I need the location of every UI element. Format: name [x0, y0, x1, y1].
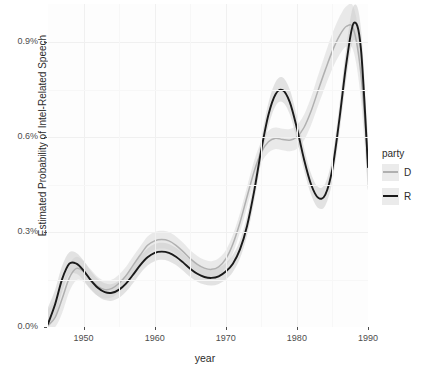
legend-title: party	[382, 148, 428, 159]
x-tick-mark	[297, 327, 298, 330]
grid-line-horizontal	[48, 137, 368, 138]
legend-key-line	[383, 171, 398, 173]
x-tick-mark	[368, 327, 369, 330]
y-tick-label: 0.9%	[2, 37, 38, 46]
legend-key-swatch	[382, 164, 399, 181]
plot-panel	[48, 4, 368, 327]
y-tick-mark	[44, 42, 47, 43]
legend-item-d[interactable]: D	[382, 164, 428, 181]
grid-line-horizontal	[48, 232, 368, 233]
x-tick-label: 1980	[277, 333, 317, 343]
x-tick-mark	[155, 327, 156, 330]
grid-line-horizontal	[48, 42, 368, 43]
legend-item-r[interactable]: R	[382, 188, 428, 205]
grid-line-horizontal-minor	[48, 90, 368, 91]
grid-line-vertical-minor	[190, 4, 191, 327]
legend: party DR	[382, 148, 428, 212]
chart-root: Estimated Probability of Intel-Related S…	[0, 0, 428, 374]
legend-key-line	[383, 195, 398, 197]
grid-line-vertical	[297, 4, 298, 327]
y-tick-label: 0.3%	[2, 227, 38, 236]
legend-label: R	[404, 191, 411, 202]
y-tick-label: 0.6%	[2, 132, 38, 141]
y-tick-mark	[44, 137, 47, 138]
grid-line-horizontal-minor	[48, 280, 368, 281]
plot-area	[48, 4, 368, 327]
grid-line-vertical	[226, 4, 227, 327]
y-tick-mark	[44, 232, 47, 233]
y-axis-ticks: 0.0%0.3%0.6%0.9%	[0, 0, 48, 374]
x-axis-title: year	[40, 352, 370, 364]
legend-entries: DR	[382, 164, 428, 205]
grid-line-vertical	[155, 4, 156, 327]
x-tick-label: 1970	[206, 333, 246, 343]
grid-line-horizontal-minor	[48, 185, 368, 186]
y-tick-label: 0.0%	[2, 322, 38, 331]
x-tick-mark	[226, 327, 227, 330]
grid-line-vertical-minor	[261, 4, 262, 327]
legend-key-swatch	[382, 188, 399, 205]
grid-line-vertical	[84, 4, 85, 327]
x-tick-label: 1960	[135, 333, 175, 343]
grid-line-vertical-minor	[332, 4, 333, 327]
legend-label: D	[404, 167, 411, 178]
x-tick-label: 1990	[348, 333, 388, 343]
x-tick-mark	[84, 327, 85, 330]
grid-line-vertical-minor	[119, 4, 120, 327]
x-tick-label: 1950	[64, 333, 104, 343]
y-tick-mark	[44, 327, 47, 328]
